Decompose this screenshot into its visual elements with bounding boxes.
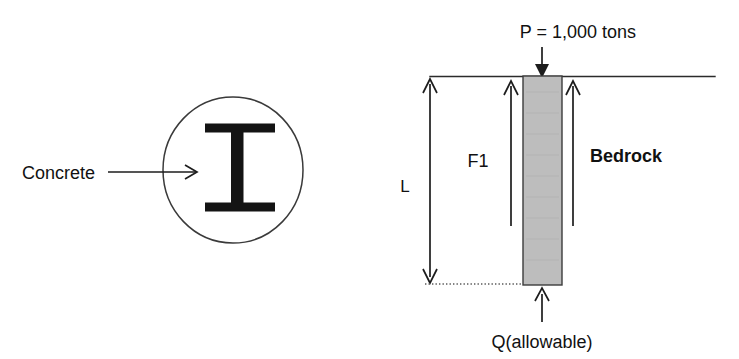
i-beam-web <box>231 130 244 206</box>
length-label: L <box>400 177 409 196</box>
elevation-group: P = 1,000 tons <box>400 22 715 352</box>
skin-friction-label: F1 <box>467 151 488 171</box>
pile-foundation-diagram: Concrete P = 1,000 tons <box>0 0 739 359</box>
concrete-pile-shaft <box>523 76 562 285</box>
base-resistance-label: Q(allowable) <box>491 332 592 352</box>
applied-load-label: P = 1,000 tons <box>520 22 636 42</box>
i-beam-bottom-flange <box>205 203 275 212</box>
cross-section-group: Concrete <box>22 97 303 243</box>
concrete-label: Concrete <box>22 163 95 183</box>
bedrock-label: Bedrock <box>590 146 663 166</box>
figure-root: Concrete P = 1,000 tons <box>0 0 739 359</box>
